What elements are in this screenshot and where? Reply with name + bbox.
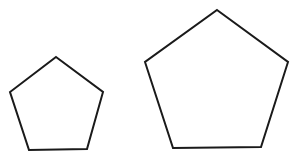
small-pentagon	[10, 57, 103, 150]
diagram-canvas	[0, 0, 296, 168]
large-pentagon	[145, 10, 288, 148]
